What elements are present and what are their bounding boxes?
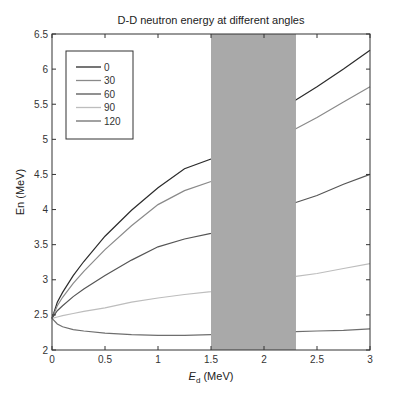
x-tick-label: 0: [49, 354, 55, 365]
legend-label: 0: [104, 62, 110, 73]
y-tick-label: 6.5: [34, 29, 48, 40]
x-tick-label: 1: [155, 354, 161, 365]
legend-label: 120: [104, 116, 121, 127]
legend-label: 90: [104, 102, 116, 113]
x-tick-label: 1.5: [204, 354, 218, 365]
chart-canvas: D-D neutron energy at different angles 0…: [0, 0, 393, 398]
x-tick-label: 2.5: [310, 354, 324, 365]
legend-box: [66, 51, 133, 139]
y-tick-label: 2.5: [34, 309, 48, 320]
chart-background: [0, 0, 393, 398]
chart-title: D-D neutron energy at different angles: [118, 14, 305, 26]
y-tick-label: 4: [42, 204, 48, 215]
x-axis-label-unit: (MeV): [200, 370, 233, 382]
y-tick-label: 4.5: [34, 169, 48, 180]
y-tick-label: 5.5: [34, 99, 48, 110]
x-tick-label: 3: [367, 354, 373, 365]
y-axis-label: En (MeV): [14, 169, 26, 215]
legend: 0306090120: [66, 51, 133, 139]
y-tick-label: 3.5: [34, 239, 48, 250]
legend-label: 60: [104, 89, 116, 100]
x-tick-label: 0.5: [98, 354, 112, 365]
y-tick-label: 2: [42, 345, 48, 356]
shaded-region-overlay: [211, 34, 296, 350]
y-tick-label: 6: [42, 64, 48, 75]
legend-label: 30: [104, 75, 116, 86]
y-tick-label: 5: [42, 134, 48, 145]
x-tick-label: 2: [261, 354, 267, 365]
y-tick-label: 3: [42, 274, 48, 285]
